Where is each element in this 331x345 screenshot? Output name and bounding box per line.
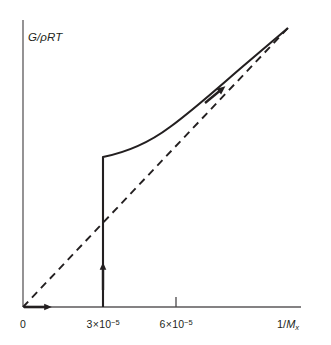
y-axis-label: G/ρRT bbox=[28, 31, 62, 43]
tick-times-sign: × bbox=[92, 318, 99, 330]
x-axis-label-prefix: 1/ bbox=[277, 318, 286, 330]
figure-root: G/ρRT 1/Mx 0 3×10−5 6×10−5 bbox=[0, 0, 331, 345]
tick-mantissa: 3 bbox=[86, 318, 92, 330]
x-tick-label-3e-5: 3×10−5 bbox=[86, 318, 119, 330]
x-axis-label-subscript: x bbox=[295, 323, 299, 332]
equilibrium-curve-solid bbox=[103, 28, 288, 307]
plot-canvas bbox=[0, 0, 331, 345]
tick-base: 10 bbox=[172, 318, 184, 330]
ideal-tangent-dashed-line bbox=[23, 28, 288, 307]
x-axis-label-variable: M bbox=[286, 318, 295, 330]
tick-base: 10 bbox=[99, 318, 111, 330]
x-tick-label-origin: 0 bbox=[20, 318, 26, 330]
tick-times-sign: × bbox=[165, 318, 172, 330]
x-tick-label-6e-5: 6×10−5 bbox=[159, 318, 192, 330]
tick-exponent: −5 bbox=[184, 318, 193, 327]
tick-exponent: −5 bbox=[111, 318, 120, 327]
tick-mantissa: 6 bbox=[159, 318, 165, 330]
x-axis-label: 1/Mx bbox=[277, 318, 299, 332]
